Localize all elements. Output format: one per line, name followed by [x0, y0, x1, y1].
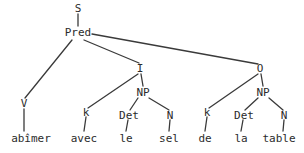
edge-n2-table: [283, 120, 284, 131]
node-k-1: k: [83, 107, 90, 118]
node-s: S: [75, 3, 82, 14]
node-k-2: k: [204, 107, 211, 118]
node-n-1: N: [167, 110, 174, 121]
node-v: V: [21, 98, 28, 109]
node-det-1: Det: [119, 110, 139, 121]
node-np-2: NP: [256, 87, 269, 98]
edge-k1-avec: [84, 117, 86, 131]
node-np-1: NP: [136, 87, 149, 98]
edge-i-k1: [88, 74, 138, 108]
edge-pred-o: [92, 34, 258, 64]
node-o: O: [257, 63, 264, 74]
edge-n1-sel: [169, 120, 170, 131]
word-de: de: [198, 133, 211, 144]
word-la: la: [234, 133, 247, 144]
edge-pred-v: [25, 40, 72, 98]
node-i: I: [137, 63, 144, 74]
edge-k2-de: [205, 117, 207, 131]
tree-edges: [0, 0, 304, 153]
word-abimer: abîmer: [11, 133, 51, 144]
edge-o-np2: [261, 74, 263, 86]
word-avec: avec: [71, 133, 98, 144]
node-det-2: Det: [234, 110, 254, 121]
edge-i-np1: [141, 74, 143, 86]
edge-det2-la: [241, 120, 243, 131]
edge-pred-i: [84, 40, 139, 63]
edge-o-k2: [209, 74, 258, 108]
node-pred: Pred: [65, 27, 92, 38]
edge-det1-le: [126, 120, 128, 131]
node-n-2: N: [281, 110, 288, 121]
word-table: table: [262, 133, 295, 144]
word-le: le: [119, 133, 132, 144]
word-sel: sel: [159, 133, 179, 144]
syntax-tree-diagram: S Pred V I O k NP Det N k NP Det N abîme…: [0, 0, 304, 153]
